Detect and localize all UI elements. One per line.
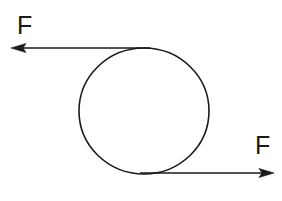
top-force-label: F bbox=[17, 11, 32, 39]
bottom-force-label: F bbox=[255, 131, 270, 159]
diagram-background bbox=[0, 0, 282, 201]
force-couple-diagram: F F bbox=[0, 0, 282, 201]
diagram-canvas: F F bbox=[0, 0, 282, 201]
